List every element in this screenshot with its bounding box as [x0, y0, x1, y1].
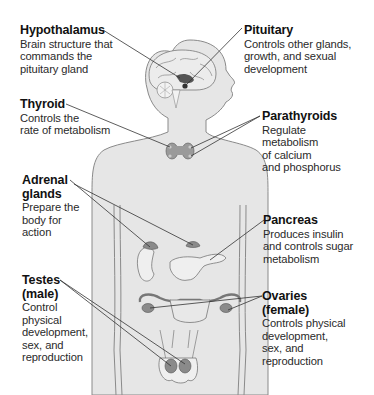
ovaries-desc-3: sex, and	[262, 342, 346, 355]
hypothalamus-desc-2: commands the	[20, 50, 113, 63]
ovaries-title-1: Ovaries	[262, 290, 346, 304]
ovaries-title-2: (female)	[262, 304, 346, 318]
adrenal-desc-3: action	[22, 226, 79, 239]
body-silhouette	[92, 40, 268, 395]
adrenal-desc-1: Prepare the	[22, 201, 79, 214]
parathyroids-desc-3: of calcium	[262, 149, 341, 162]
label-ovaries: Ovaries (female) Controls physical devel…	[262, 290, 346, 367]
parathyroids-desc-1: Regulate	[262, 124, 341, 137]
testes-title-1: Testes	[22, 274, 88, 288]
label-hypothalamus: Hypothalamus Brain structure that comman…	[20, 24, 113, 75]
ovaries-desc-4: reproduction	[262, 355, 346, 368]
testes-desc-1: Control	[22, 301, 88, 314]
label-parathyroids: Parathyroids Regulate metabolism of calc…	[262, 110, 341, 174]
pancreas-desc-1: Produces insulin	[263, 228, 353, 241]
testes-desc-3: development,	[22, 326, 88, 339]
pituitary-desc-1: Controls other glands,	[244, 38, 351, 51]
testes-title-2: (male)	[22, 288, 88, 302]
label-pancreas: Pancreas Produces insulin and controls s…	[263, 214, 353, 265]
testes-desc-2: physical	[22, 314, 88, 327]
pituitary-desc-3: development	[244, 63, 351, 76]
ovaries-desc-2: development,	[262, 330, 346, 343]
thyroid-desc-1: Controls the	[20, 112, 110, 125]
ovaries-desc-1: Controls physical	[262, 317, 346, 330]
parathyroids-title: Parathyroids	[262, 110, 341, 124]
testes-desc-5: reproduction	[22, 351, 88, 364]
pancreas-desc-2: and controls sugar	[263, 240, 353, 253]
pituitary-desc-2: growth, and sexual	[244, 50, 351, 63]
adrenal-desc-2: body for	[22, 214, 79, 227]
thyroid-title: Thyroid	[20, 98, 110, 112]
thyroid-desc-2: rate of metabolism	[20, 124, 110, 137]
pancreas-title: Pancreas	[263, 214, 353, 228]
hypothalamus-desc-3: pituitary gland	[20, 63, 113, 76]
adrenal-title-1: Adrenal	[22, 174, 79, 188]
adrenal-title-2: glands	[22, 188, 79, 202]
parathyroids-desc-2: metabolism	[262, 136, 341, 149]
hypothalamus-desc-1: Brain structure that	[20, 38, 113, 51]
label-testes: Testes (male) Control physical developme…	[22, 274, 88, 364]
pancreas-desc-3: metabolism	[263, 253, 353, 266]
parathyroids-desc-4: and phosphorus	[262, 161, 341, 174]
label-thyroid: Thyroid Controls the rate of metabolism	[20, 98, 110, 137]
hypothalamus-title: Hypothalamus	[20, 24, 113, 38]
label-adrenal-glands: Adrenal glands Prepare the body for acti…	[22, 174, 79, 239]
pituitary-title: Pituitary	[244, 24, 351, 38]
testes-desc-4: sex, and	[22, 339, 88, 352]
label-pituitary: Pituitary Controls other glands, growth,…	[244, 24, 351, 75]
